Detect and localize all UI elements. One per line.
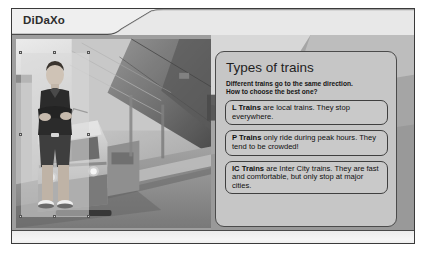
train-type-box-p[interactable]: P Trains only ride during peak hours. Th… <box>225 130 388 155</box>
panel-subtitle: Different trains go to the same directio… <box>226 80 388 95</box>
panel-subtitle-line-1: Different trains go to the same directio… <box>226 80 388 88</box>
info-panel: Types of trains Different trains go to t… <box>215 51 397 227</box>
resize-handle-top-right[interactable] <box>87 51 90 54</box>
slide-screenshot: DiDaXo <box>0 0 426 258</box>
panel-title: Types of trains <box>226 60 388 75</box>
resize-handle-bottom-left[interactable] <box>19 215 22 218</box>
presenter-figure <box>21 53 89 217</box>
resize-handle-middle-right[interactable] <box>87 133 90 136</box>
app-header: DiDaXo <box>12 9 414 35</box>
header-swoosh-decoration <box>12 9 414 35</box>
presenter-image[interactable] <box>21 53 89 217</box>
slide-footer-bar <box>12 230 414 244</box>
resize-handle-bottom-right[interactable] <box>87 215 90 218</box>
train-type-box-l[interactable]: L Trains are local trains. They stop eve… <box>225 100 388 125</box>
train-type-text-p: P Trains only ride during peak hours. Th… <box>232 134 382 151</box>
train-type-text-ic: IC Trains are Inter City trains. They ar… <box>232 165 382 191</box>
slide-frame: DiDaXo <box>11 8 415 244</box>
panel-subtitle-line-2: How to choose the best one? <box>226 88 388 96</box>
resize-handle-top-left[interactable] <box>19 51 22 54</box>
resize-handle-top-center[interactable] <box>53 51 56 54</box>
train-type-box-ic[interactable]: IC Trains are Inter City trains. They ar… <box>225 161 388 195</box>
resize-handle-bottom-center[interactable] <box>53 215 56 218</box>
app-title: DiDaXo <box>23 14 65 26</box>
slide-stage: Types of trains Different trains go to t… <box>12 35 414 244</box>
resize-handle-middle-left[interactable] <box>19 133 22 136</box>
train-type-text-l: L Trains are local trains. They stop eve… <box>232 104 382 121</box>
